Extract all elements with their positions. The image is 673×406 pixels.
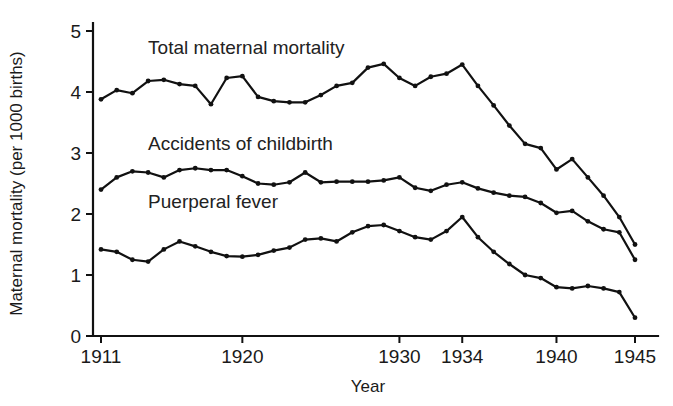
series-1 [99,62,638,247]
data-point [428,74,433,79]
y-axis-tick-label: 5 [70,21,81,42]
data-point [114,88,119,93]
data-point [256,252,261,257]
data-point [444,229,449,234]
data-point [146,79,151,84]
data-point [114,175,119,180]
x-axis-tick-label: 1934 [441,346,484,367]
data-point [523,141,528,146]
data-point [523,195,528,200]
data-point [177,239,182,244]
series-3 [99,215,638,320]
data-point [161,77,166,82]
data-point [271,248,276,253]
series-line [101,64,635,245]
data-point [381,62,386,67]
data-point [570,286,575,291]
x-axis-tick-label: 1940 [535,346,577,367]
x-axis-title: Year [351,377,386,396]
data-point [177,168,182,173]
data-point [318,180,323,185]
maternal-mortality-chart: 012345191119201930193419401945YearMatern… [0,0,673,406]
data-point [209,249,214,254]
data-point [397,229,402,234]
data-point [318,93,323,98]
data-point [334,179,339,184]
data-point [444,71,449,76]
data-point [161,247,166,252]
data-point [318,236,323,241]
data-point [507,262,512,267]
data-point [271,99,276,104]
data-point [585,175,590,180]
x-axis-tick-label: 1920 [221,346,263,367]
data-point [413,185,418,190]
data-point [633,257,638,262]
data-point [617,215,622,220]
data-point [476,186,481,191]
data-point [413,84,418,89]
data-point [633,242,638,247]
data-point [350,80,355,85]
data-point [224,76,229,81]
data-point [601,227,606,232]
series-label: Total maternal mortality [148,37,345,58]
data-point [334,239,339,244]
data-point [381,178,386,183]
data-point [507,123,512,128]
data-point [146,259,151,264]
x-axis-tick-label: 1930 [378,346,420,367]
data-point [397,175,402,180]
data-point [554,210,559,215]
data-point [209,102,214,107]
data-point [476,84,481,89]
data-point [240,174,245,179]
data-point [130,169,135,174]
data-point [99,97,104,102]
y-axis-tick-label: 3 [70,143,81,164]
data-point [193,84,198,89]
data-point [460,180,465,185]
data-point [161,175,166,180]
chart-canvas: 012345191119201930193419401945YearMatern… [0,0,673,406]
data-point [256,94,261,99]
data-point [585,284,590,289]
data-point [303,237,308,242]
data-point [350,179,355,184]
data-point [366,179,371,184]
data-point [554,285,559,290]
y-axis-tick-label: 4 [70,82,81,103]
data-point [413,235,418,240]
data-point [350,230,355,235]
y-axis-tick-label: 0 [70,326,81,347]
data-point [193,244,198,249]
data-point [271,182,276,187]
data-point [585,219,590,224]
data-point [460,62,465,67]
data-point [287,180,292,185]
data-point [491,190,496,195]
data-point [240,254,245,259]
data-point [444,182,449,187]
series-2 [99,166,638,262]
data-point [617,290,622,295]
data-point [538,276,543,281]
series-label: Accidents of childbirth [148,133,333,154]
data-point [491,103,496,108]
series-label: Puerperal fever [148,191,279,212]
data-point [303,100,308,105]
data-point [303,170,308,175]
data-point [476,235,481,240]
data-point [209,168,214,173]
x-axis-tick-label: 1945 [614,346,656,367]
data-point [397,76,402,81]
data-point [507,193,512,198]
x-axis-tick-label: 1911 [81,346,122,367]
data-point [287,245,292,250]
data-point [538,201,543,206]
data-point [460,215,465,220]
data-point [366,224,371,229]
data-point [256,181,261,186]
data-point [617,230,622,235]
series-line [101,217,635,318]
